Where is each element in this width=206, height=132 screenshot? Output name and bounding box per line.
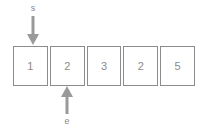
pointer-start: s bbox=[22, 4, 44, 46]
array-cell[interactable]: 2 bbox=[50, 46, 85, 86]
pointer-end: e bbox=[56, 86, 78, 126]
pointer-start-label: s bbox=[31, 4, 36, 13]
arrow-up-icon bbox=[60, 86, 74, 114]
array-cell-value: 2 bbox=[64, 61, 70, 72]
array-cell-value: 2 bbox=[138, 61, 144, 72]
array-cell[interactable]: 5 bbox=[160, 46, 195, 86]
array-pointer-diagram: s 1 2 3 2 5 e bbox=[0, 0, 206, 132]
array-cell-value: 1 bbox=[27, 61, 33, 72]
array-cell[interactable]: 2 bbox=[123, 46, 158, 86]
array-cell-value: 3 bbox=[101, 61, 107, 72]
pointer-end-label: e bbox=[64, 117, 69, 126]
array-cell[interactable]: 3 bbox=[87, 46, 122, 86]
array-cell-value: 5 bbox=[175, 61, 181, 72]
arrow-down-icon bbox=[26, 16, 40, 46]
array-track: 1 2 3 2 5 bbox=[13, 46, 195, 86]
array-cell[interactable]: 1 bbox=[13, 46, 48, 86]
